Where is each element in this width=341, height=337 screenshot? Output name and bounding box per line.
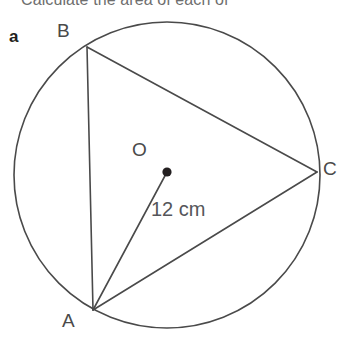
center-point-dot <box>162 167 171 176</box>
chord-a-to-b <box>87 47 93 310</box>
vertex-label-b: B <box>57 20 70 42</box>
chord-c-to-a <box>93 172 317 310</box>
figure-page: Calculate the area of each of a B O C A … <box>0 0 341 337</box>
vertex-label-a: A <box>62 310 75 332</box>
geometry-diagram <box>0 0 341 337</box>
chord-b-to-c <box>87 47 317 172</box>
center-label-o: O <box>132 139 147 161</box>
radius-line-o-to-a <box>93 172 167 310</box>
vertex-label-c: C <box>323 158 337 180</box>
radius-measure-label: 12 cm <box>151 198 205 221</box>
